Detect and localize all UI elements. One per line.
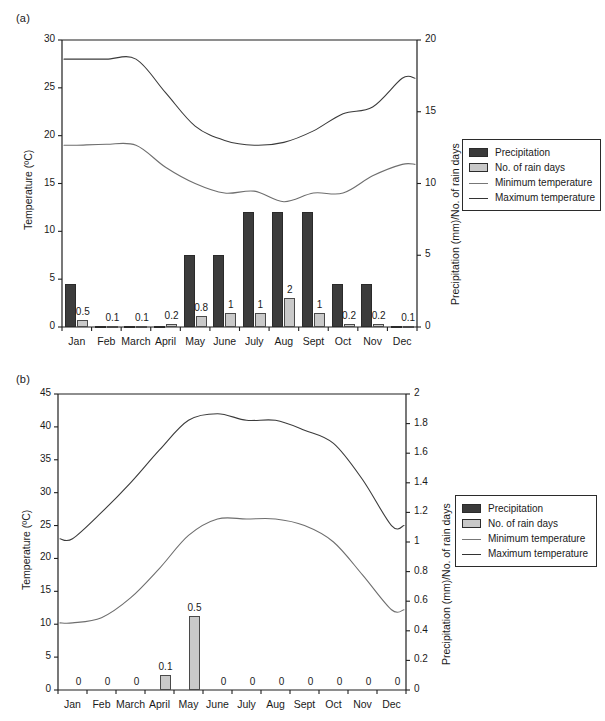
y2-axis-tick-label: 1.8: [414, 417, 428, 428]
x-axis-category-label: Aug: [261, 698, 290, 710]
y2-axis-tick-label: 2: [414, 387, 420, 398]
rain-days-bar: [196, 316, 207, 327]
legend-row: Precipitation: [469, 145, 593, 160]
x-axis-category-label: Sept: [290, 698, 319, 710]
x-axis-category-label: Oct: [319, 698, 348, 710]
legend-swatch-precipitation: [462, 504, 481, 513]
x-axis-category-label: March: [121, 335, 151, 347]
rain-days-value-label: 0: [121, 676, 153, 687]
y-axis-tick-label: 35: [0, 453, 51, 464]
rain-days-bar: [314, 313, 325, 327]
panel-a-figure: (a) Temperature (ºC) Precipitation (mm)/…: [0, 0, 605, 365]
rain-days-value-label: 0.1: [392, 312, 424, 323]
rain-days-value-label: 0: [208, 676, 240, 687]
x-axis-category-label: April: [151, 335, 181, 347]
legend-line-maximum-temperature: [462, 554, 481, 555]
rain-days-bar: [189, 616, 200, 690]
y2-axis-tick-label: 0.2: [414, 653, 428, 664]
rain-days-bar: [255, 313, 266, 327]
rain-days-value-label: 0.5: [67, 306, 99, 317]
y-axis-tick-label: 10: [0, 617, 51, 628]
y-axis-tick-label: 25: [0, 81, 55, 92]
x-axis-category-label: Jan: [62, 335, 92, 347]
legend-label: Precipitation: [488, 503, 543, 514]
rain-days-value-label: 0: [353, 676, 385, 687]
x-axis-category-label: Nov: [358, 335, 388, 347]
x-axis-category-label: Feb: [92, 335, 122, 347]
y-axis-tick-label: 15: [0, 584, 51, 595]
legend-label: Maximum temperature: [488, 548, 588, 559]
rain-days-value-label: 0.5: [179, 602, 211, 613]
y2-axis-tick-label: 0: [414, 683, 420, 694]
panel-a-legend: PrecipitationNo. of rain daysMinimum tem…: [462, 139, 601, 211]
rain-days-value-label: 0.2: [363, 310, 395, 321]
legend-label: Minimum temperature: [488, 533, 585, 544]
x-axis-category-label: April: [145, 698, 174, 710]
legend-row: Precipitation: [462, 501, 589, 516]
precipitation-bar: [184, 255, 195, 327]
rain-days-value-label: 0: [324, 676, 356, 687]
x-axis-category-label: May: [174, 698, 203, 710]
y-axis-tick-label: 25: [0, 519, 51, 530]
rain-days-bar: [284, 298, 295, 327]
legend-label: Maximum temperature: [495, 192, 595, 203]
legend-row: No. of rain days: [462, 516, 589, 531]
y-axis-tick-label: 5: [0, 650, 51, 661]
rain-days-value-label: 0: [295, 676, 327, 687]
x-axis-category-label: Aug: [269, 335, 299, 347]
x-axis-category-label: June: [210, 335, 240, 347]
rain-days-value-label: 0.1: [96, 312, 128, 323]
y-axis-tick-label: 5: [0, 272, 55, 283]
y2-axis-tick-label: 5: [425, 248, 431, 259]
rain-days-bar: [225, 313, 236, 327]
legend-swatch-rain-days: [469, 163, 488, 172]
minimum-temperature-line: [60, 518, 404, 624]
precipitation-bar: [95, 326, 106, 328]
y2-axis-tick-label: 1.4: [414, 476, 428, 487]
x-axis-category-label: Feb: [87, 698, 116, 710]
y-axis-tick-label: 40: [0, 420, 51, 431]
minimum-temperature-line: [64, 143, 415, 201]
precipitation-bar: [124, 326, 135, 328]
x-axis-category-label: May: [180, 335, 210, 347]
x-axis-category-label: Sept: [299, 335, 329, 347]
precipitation-bar: [213, 255, 224, 327]
y-axis-tick-label: 0: [0, 320, 55, 331]
precipitation-bar: [154, 326, 165, 328]
y-axis-tick-label: 20: [0, 551, 51, 562]
panel-b-figure: (b) Temperature (ºC) Precipitation (mm)/…: [0, 365, 605, 721]
rain-days-bar: [344, 324, 355, 327]
maximum-temperature-line: [60, 414, 404, 541]
x-axis-category-label: Nov: [348, 698, 377, 710]
legend-label: Precipitation: [495, 147, 550, 158]
y-axis-tick-label: 45: [0, 387, 51, 398]
legend-row: Minimum temperature: [462, 531, 589, 546]
rain-days-value-label: 0: [63, 676, 95, 687]
x-axis-category-label: July: [232, 698, 261, 710]
y-axis-tick-label: 30: [0, 486, 51, 497]
x-axis-category-label: Dec: [387, 335, 417, 347]
precipitation-bar: [302, 212, 313, 327]
y2-axis-tick-label: 0.6: [414, 594, 428, 605]
rain-days-bar: [77, 320, 88, 327]
y-axis-tick-label: 0: [0, 683, 51, 694]
x-axis-category-label: Dec: [377, 698, 406, 710]
legend-row: Minimum temperature: [469, 175, 593, 190]
rain-days-value-label: 0.1: [150, 661, 182, 672]
x-axis-category-label: June: [203, 698, 232, 710]
precipitation-bar: [391, 326, 402, 328]
legend-label: Minimum temperature: [495, 177, 592, 188]
rain-days-bar: [107, 326, 118, 328]
y2-axis-tick-label: 1.2: [414, 505, 428, 516]
legend-line-maximum-temperature: [469, 198, 488, 199]
legend-swatch-rain-days: [462, 519, 481, 528]
legend-row: Maximum temperature: [469, 190, 593, 205]
rain-days-value-label: 0: [237, 676, 269, 687]
legend-row: Maximum temperature: [462, 546, 589, 561]
y2-axis-tick-label: 15: [425, 105, 436, 116]
y-axis-tick-label: 10: [0, 224, 55, 235]
y2-axis-tick-label: 0.8: [414, 565, 428, 576]
y2-axis-tick-label: 0: [425, 320, 431, 331]
x-axis-category-label: Jan: [58, 698, 87, 710]
legend-label: No. of rain days: [488, 518, 558, 529]
